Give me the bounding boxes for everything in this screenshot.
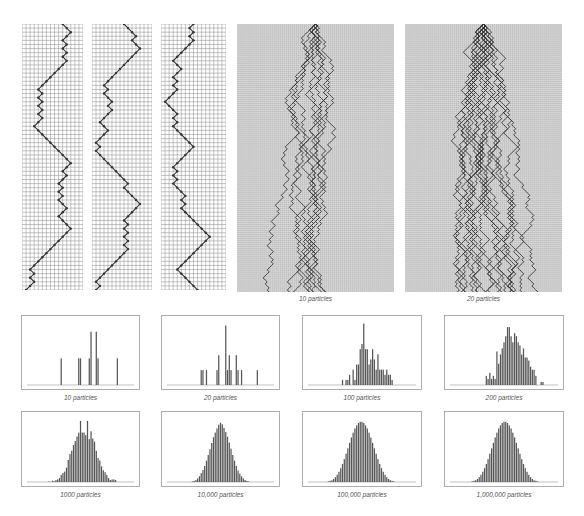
random-walk-grid-2 [92, 24, 152, 290]
histogram-3 [302, 315, 422, 390]
histogram-6 [161, 411, 280, 487]
histogram-7 [302, 411, 422, 487]
histogram-4 [444, 315, 564, 390]
histogram-caption: 1,000,000 particles [444, 491, 564, 498]
histogram-2 [161, 315, 280, 390]
walk-caption: 10 particles [256, 295, 376, 302]
walk-caption: 20 particles [424, 295, 544, 302]
histogram-caption: 100,000 particles [302, 491, 422, 498]
random-walk-grid-4 [237, 24, 394, 292]
histogram-8 [444, 411, 564, 487]
random-walk-grid-3 [161, 24, 226, 290]
histogram-5 [21, 411, 140, 487]
random-walk-grid-1 [22, 24, 83, 290]
random-walk-grid-5 [405, 24, 562, 292]
histogram-caption: 1000 particles [21, 491, 141, 498]
histogram-caption: 200 particles [444, 394, 564, 401]
histogram-caption: 10,000 particles [161, 491, 281, 498]
histogram-caption: 100 particles [302, 394, 422, 401]
histogram-caption: 10 particles [21, 394, 141, 401]
histogram-1 [21, 315, 140, 390]
histogram-caption: 20 particles [161, 394, 281, 401]
